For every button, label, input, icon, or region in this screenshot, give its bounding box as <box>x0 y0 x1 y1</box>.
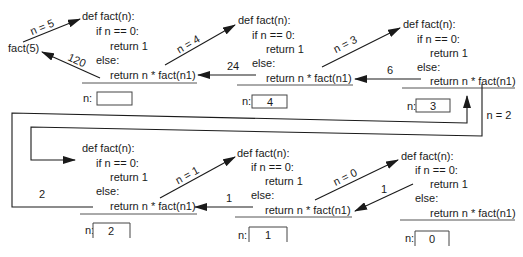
stack-frame-5: def fact(n): if n == 0: return 1 else: r… <box>235 147 352 242</box>
code-line-return-recursive: return n * fact(n1) <box>266 72 352 84</box>
code-line-def: def fact(n): <box>238 14 291 26</box>
n-label: n: <box>405 232 414 244</box>
code-line-return-base: return 1 <box>266 43 304 55</box>
code-line-if: if n == 0: <box>96 157 139 169</box>
code-line-else: else: <box>252 57 275 69</box>
n-label: n: <box>407 100 416 112</box>
n-value: 1 <box>265 229 271 241</box>
code-line-else: else: <box>415 192 438 204</box>
stack-frame-2: def fact(n): if n == 0: return 1 else: r… <box>237 14 353 108</box>
stack-frame-3: def fact(n): if n == 0: return 1 else: r… <box>402 18 516 112</box>
call-label: n = 3 <box>331 33 359 55</box>
return-label: 1 <box>381 183 387 195</box>
n-value: 4 <box>267 96 273 108</box>
call-label: n = 2 <box>487 109 512 121</box>
n-value: 3 <box>430 100 436 112</box>
code-line-return-recursive: return n * fact(n1) <box>430 75 516 87</box>
code-line-return-recursive: return n * fact(n1) <box>265 204 351 216</box>
code-line-if: if n == 0: <box>96 25 139 37</box>
return-label: 120 <box>66 51 88 69</box>
code-line-return-base: return 1 <box>110 171 148 183</box>
code-line-if: if n == 0: <box>252 29 295 41</box>
code-line-return-base: return 1 <box>430 178 468 190</box>
n-value: 0 <box>429 233 435 245</box>
return-label: 6 <box>387 64 393 76</box>
initial-call-label: fact(5) <box>8 42 39 54</box>
stack-frame-4: def fact(n): if n == 0: return 1 else: r… <box>80 142 197 238</box>
recursion-diagram: fact(5) def fact(n): if n == 0: return 1… <box>0 0 523 257</box>
return-label: 24 <box>227 60 239 72</box>
n-value-box <box>97 92 132 105</box>
code-line-return-base: return 1 <box>265 175 303 187</box>
call-label: n = 0 <box>331 166 359 188</box>
n-label: n: <box>83 92 92 104</box>
code-line-else: else: <box>417 61 440 73</box>
code-line-def: def fact(n): <box>82 10 135 22</box>
code-line-if: if n == 0: <box>251 161 294 173</box>
code-line-if: if n == 0: <box>417 33 460 45</box>
code-line-def: def fact(n): <box>401 150 454 162</box>
code-line-else: else: <box>96 54 119 66</box>
code-line-def: def fact(n): <box>82 142 135 154</box>
code-line-return-base: return 1 <box>430 47 468 59</box>
code-line-return-recursive: return n * fact(n1) <box>430 207 516 219</box>
n-label: n: <box>238 229 247 241</box>
code-line-else: else: <box>251 189 274 201</box>
code-line-else: else: <box>96 185 119 197</box>
code-line-return-recursive: return n * fact(n1) <box>110 200 196 212</box>
n-label: n: <box>242 95 251 107</box>
code-line-if: if n == 0: <box>415 164 458 176</box>
return-label: 2 <box>39 188 45 200</box>
code-line-return-recursive: return n * fact(n1) <box>110 69 196 81</box>
stack-frame-6: def fact(n): if n == 0: return 1 else: r… <box>400 150 516 246</box>
code-line-return-base: return 1 <box>110 40 148 52</box>
return-label: 1 <box>226 192 232 204</box>
code-line-def: def fact(n): <box>237 147 290 159</box>
n-value: 2 <box>108 225 114 237</box>
call-arrow-icon <box>160 157 235 198</box>
code-line-def: def fact(n): <box>403 18 456 30</box>
stack-frame-1: def fact(n): if n == 0: return 1 else: r… <box>82 10 197 105</box>
